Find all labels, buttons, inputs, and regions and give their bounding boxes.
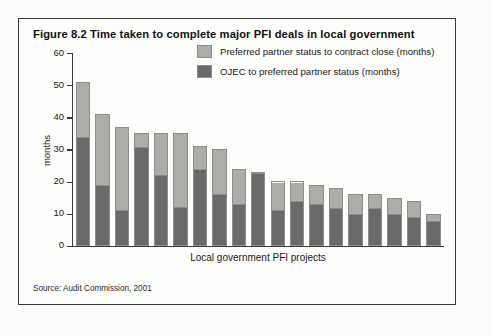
- bar-segment-preferred-to-close: [310, 186, 322, 205]
- bar-segment-preferred-to-close: [291, 183, 303, 202]
- bar-segment-ojec-to-preferred: [408, 217, 420, 245]
- y-tick-label: 20: [53, 175, 64, 186]
- stacked-bar[interactable]: [290, 181, 304, 245]
- bar-slot: [385, 53, 404, 246]
- bar-slot: [249, 53, 268, 246]
- stacked-bar[interactable]: [76, 82, 90, 246]
- bar-segment-ojec-to-preferred: [252, 173, 264, 245]
- y-tick-label: 10: [53, 207, 64, 218]
- stacked-bar[interactable]: [134, 133, 148, 245]
- stacked-bar[interactable]: [115, 127, 129, 246]
- legend-swatch-preferred_to_close: [197, 45, 212, 58]
- bar-slot: [287, 53, 306, 246]
- stacked-bar[interactable]: [368, 194, 382, 245]
- stacked-bar[interactable]: [426, 214, 440, 246]
- stacked-bar[interactable]: [212, 149, 226, 245]
- bar-slot: [307, 53, 326, 246]
- bar-segment-preferred-to-close: [408, 202, 420, 217]
- bar-segment-ojec-to-preferred: [349, 214, 361, 245]
- bar-segment-preferred-to-close: [233, 170, 245, 204]
- bar-segment-preferred-to-close: [174, 134, 186, 207]
- stacked-bar[interactable]: [95, 114, 109, 246]
- bar-segment-preferred-to-close: [349, 195, 361, 214]
- bar-slot: [268, 53, 287, 246]
- bar-segment-preferred-to-close: [135, 134, 147, 147]
- bar-slot: [326, 53, 345, 246]
- bar-segment-ojec-to-preferred: [96, 185, 108, 245]
- bar-slot: [93, 53, 112, 246]
- stacked-bar[interactable]: [387, 198, 401, 246]
- bar-slot: [132, 53, 151, 246]
- y-tick: 50: [67, 85, 72, 86]
- bar-segment-ojec-to-preferred: [213, 194, 225, 244]
- bar-segment-preferred-to-close: [272, 183, 284, 211]
- figure-panel: Figure 8.2 Time taken to complete major …: [18, 18, 456, 305]
- legend-item-ojec_to_preferred: OJEC to preferred partner status (months…: [197, 65, 434, 78]
- bar-group: [73, 53, 443, 246]
- bar-segment-ojec-to-preferred: [330, 208, 342, 245]
- bar-segment-ojec-to-preferred: [233, 204, 245, 245]
- legend-swatch-ojec_to_preferred: [197, 65, 212, 78]
- source-note: Source: Audit Commission, 2001: [33, 284, 152, 293]
- x-axis-line: [72, 246, 444, 247]
- bar-slot: [365, 53, 384, 246]
- bar-segment-preferred-to-close: [96, 115, 108, 185]
- stacked-bar[interactable]: [251, 172, 265, 246]
- stacked-bar[interactable]: [271, 181, 285, 245]
- bar-segment-preferred-to-close: [194, 147, 206, 169]
- bar-segment-ojec-to-preferred: [388, 214, 400, 245]
- stacked-bar[interactable]: [154, 133, 168, 245]
- y-tick-label: 60: [53, 47, 64, 58]
- chart-legend: Preferred partner status to contract clo…: [197, 45, 434, 78]
- y-tick-label: 0: [59, 239, 64, 250]
- bar-segment-ojec-to-preferred: [135, 147, 147, 245]
- stacked-bar[interactable]: [348, 194, 362, 245]
- stacked-bar[interactable]: [329, 188, 343, 246]
- y-tick-label: 50: [53, 79, 64, 90]
- bar-segment-preferred-to-close: [116, 128, 128, 210]
- legend-label-preferred_to_close: Preferred partner status to contract clo…: [220, 46, 434, 57]
- legend-item-preferred_to_close: Preferred partner status to contract clo…: [197, 45, 434, 58]
- bar-segment-ojec-to-preferred: [272, 210, 284, 244]
- bar-slot: [424, 53, 443, 246]
- bar-segment-ojec-to-preferred: [369, 208, 381, 245]
- bar-slot: [171, 53, 190, 246]
- stacked-bar[interactable]: [193, 146, 207, 246]
- bar-slot: [151, 53, 170, 246]
- bar-slot: [346, 53, 365, 246]
- y-axis-title: months: [41, 116, 52, 186]
- figure-title: Figure 8.2 Time taken to complete major …: [33, 28, 415, 40]
- y-tick: 0: [67, 246, 72, 247]
- bar-slot: [229, 53, 248, 246]
- bar-slot: [210, 53, 229, 246]
- bar-segment-ojec-to-preferred: [155, 175, 167, 244]
- bar-segment-ojec-to-preferred: [174, 207, 186, 245]
- y-tick: 60: [67, 53, 72, 54]
- y-tick-label: 30: [53, 143, 64, 154]
- bar-segment-preferred-to-close: [388, 199, 400, 214]
- stacked-bar[interactable]: [232, 169, 246, 246]
- y-tick: 40: [67, 117, 72, 118]
- bar-segment-ojec-to-preferred: [427, 221, 439, 245]
- bar-slot: [73, 53, 92, 246]
- y-tick: 20: [67, 182, 72, 183]
- y-tick: 10: [67, 214, 72, 215]
- bar-slot: [190, 53, 209, 246]
- y-tick-label: 40: [53, 111, 64, 122]
- page-background: Figure 8.2 Time taken to complete major …: [0, 0, 492, 336]
- plot-area: months 0102030405060 Local government PF…: [19, 49, 457, 277]
- y-tick: 30: [67, 149, 72, 150]
- bar-segment-ojec-to-preferred: [194, 169, 206, 245]
- bar-segment-preferred-to-close: [369, 195, 381, 207]
- x-axis-title: Local government PFI projects: [72, 252, 444, 263]
- bar-slot: [404, 53, 423, 246]
- bar-segment-preferred-to-close: [77, 83, 89, 137]
- bar-segment-ojec-to-preferred: [291, 201, 303, 245]
- stacked-bar[interactable]: [173, 133, 187, 245]
- bar-segment-preferred-to-close: [155, 134, 167, 175]
- bar-segment-preferred-to-close: [213, 150, 225, 194]
- stacked-bar[interactable]: [407, 201, 421, 246]
- bar-slot: [112, 53, 131, 246]
- bar-segment-ojec-to-preferred: [116, 210, 128, 245]
- stacked-bar[interactable]: [309, 185, 323, 246]
